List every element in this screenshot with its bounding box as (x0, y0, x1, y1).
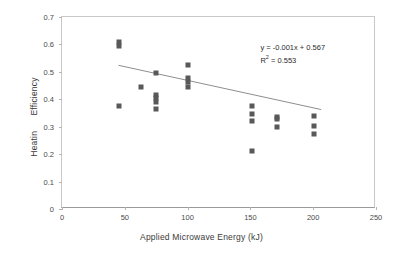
y-tick-label: 0.2 (44, 150, 54, 159)
plot-area: 00.10.20.30.40.50.60.7 050100150200250 y… (61, 16, 375, 208)
x-tick (313, 207, 314, 210)
x-tick-label: 100 (181, 213, 194, 222)
y-tick-label: 0.7 (44, 13, 54, 22)
chart-figure: Heatin Efficiency 00.10.20.30.40.50.60.7… (0, 0, 403, 255)
y-axis-title: Heatin Efficiency (29, 37, 39, 197)
x-tick (62, 207, 63, 210)
y-tick-label: 0.4 (44, 95, 54, 104)
y-tick-label: 0 (50, 205, 54, 214)
x-tick (376, 207, 377, 210)
x-axis-title: Applied Microwave Energy (kJ) (0, 232, 403, 242)
y-tick (59, 209, 62, 210)
x-tick (188, 207, 189, 210)
trendline (62, 17, 374, 207)
x-tick-label: 200 (307, 213, 320, 222)
regression-annotation: y = -0.001x + 0.567 R2 = 0.553 (260, 43, 325, 66)
y-tick-label: 0.1 (44, 177, 54, 186)
r-squared-number: = 0.553 (269, 55, 296, 64)
regression-equation: y = -0.001x + 0.567 (260, 43, 325, 54)
x-tick (250, 207, 251, 210)
x-tick-label: 150 (244, 213, 257, 222)
x-tick-label: 0 (60, 213, 64, 222)
y-tick-label: 0.6 (44, 40, 54, 49)
x-tick-label: 50 (121, 213, 129, 222)
y-tick-label: 0.5 (44, 67, 54, 76)
x-tick-label: 250 (370, 213, 383, 222)
r-squared-value: R2 = 0.553 (260, 54, 325, 66)
x-tick (125, 207, 126, 210)
y-tick-label: 0.3 (44, 122, 54, 131)
